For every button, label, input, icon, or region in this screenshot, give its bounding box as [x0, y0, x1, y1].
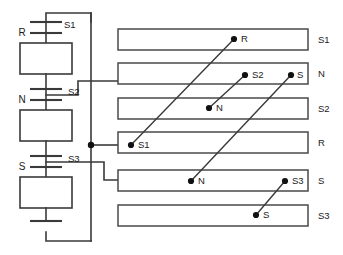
bus-bar-label-5: S [318, 175, 324, 186]
schematic-svg: R N S S1 S2 S3 S1 N S2 R S S3 [0, 0, 343, 255]
bus-junction-dot [88, 142, 94, 148]
terminal-dot-s-upper[interactable] [288, 72, 294, 78]
terminal-label-s1: S1 [138, 139, 150, 150]
bus-bar-group [118, 29, 308, 226]
terminal-label-s-lower: S [263, 209, 269, 220]
phase-label-s: S [19, 161, 26, 172]
switch-label-s3: S3 [68, 153, 80, 164]
terminal-label-r: R [241, 33, 248, 44]
block-1 [20, 43, 72, 74]
bus-bar-3[interactable] [118, 98, 308, 119]
terminal-dot-n-lower[interactable] [188, 178, 194, 184]
switch-label-s1: S1 [64, 19, 76, 30]
connection-n-to-s[interactable] [191, 75, 291, 181]
terminal-dot-s-lower[interactable] [253, 212, 259, 218]
bus-bar-2[interactable] [118, 63, 308, 84]
diagram-canvas: R N S S1 S2 S3 S1 N S2 R S S3 [0, 0, 343, 255]
terminal-label-s3: S3 [292, 175, 304, 186]
switch-label-s2: S2 [68, 86, 80, 97]
phase-label-n: N [18, 94, 25, 105]
bus-bar-label-1: S1 [318, 34, 330, 45]
bus-bar-label-6: S3 [318, 210, 330, 221]
bus-bar-label-group: S1 N S2 R S S3 [318, 34, 330, 221]
terminal-label-s2: S2 [252, 69, 264, 80]
terminal-label-n-lower: N [198, 175, 205, 186]
terminal-dot-s2[interactable] [242, 72, 248, 78]
switch-s1-group[interactable] [30, 22, 62, 43]
block-2 [20, 110, 72, 141]
terminal-dot-s3[interactable] [282, 178, 288, 184]
terminal-dot-r[interactable] [231, 36, 237, 42]
bus-bar-1[interactable] [118, 29, 308, 50]
left-circuit-group: R N S S1 S2 S3 [18, 13, 118, 241]
bus-bar-label-4: R [318, 137, 325, 148]
block-3 [20, 177, 72, 208]
terminal-dot-n-upper[interactable] [206, 105, 212, 111]
terminal-label-s-upper: S [297, 69, 303, 80]
bottom-return-wire [46, 232, 91, 241]
phase-label-r: R [18, 27, 25, 38]
terminal-label-n-upper: N [216, 102, 223, 113]
bus-bar-6[interactable] [118, 205, 308, 226]
bus-bar-label-2: N [318, 68, 325, 79]
bus-bar-label-3: S2 [318, 103, 330, 114]
terminal-dot-s1[interactable] [128, 142, 134, 148]
connection-s1-to-r[interactable] [131, 39, 234, 145]
